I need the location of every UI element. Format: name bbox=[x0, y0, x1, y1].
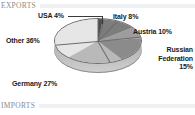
header-rule bbox=[39, 104, 195, 108]
usa-leader-line bbox=[68, 16, 103, 17]
data-label-germany: Germany 27% bbox=[12, 80, 57, 89]
section-header-imports: IMPORTS bbox=[0, 101, 195, 110]
pie-top-face bbox=[54, 18, 142, 64]
usa-leader-tick bbox=[102, 16, 103, 24]
data-label-austria: Austria 10% bbox=[133, 28, 172, 37]
exports-pie-chart: USA 4% Italy 8% Austria 10% Russian Fede… bbox=[0, 10, 195, 100]
pie-graphic bbox=[54, 18, 142, 82]
section-header-exports: EXPORTS bbox=[0, 1, 195, 10]
data-label-italy: Italy 8% bbox=[113, 13, 138, 22]
data-label-other: Other 36% bbox=[6, 37, 40, 46]
data-label-usa: USA 4% bbox=[38, 12, 64, 21]
section-title-exports: EXPORTS bbox=[0, 1, 40, 10]
data-label-russian-federation: Russian Federation 15% bbox=[148, 46, 193, 72]
section-title-imports: IMPORTS bbox=[0, 101, 39, 110]
header-rule bbox=[40, 4, 195, 8]
